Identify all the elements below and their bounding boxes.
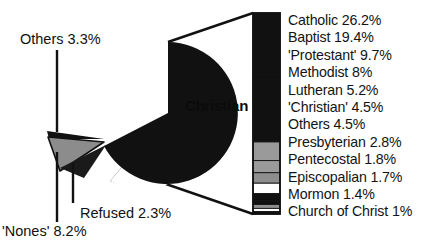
breakout-segment (253, 204, 280, 208)
breakout-legend-item: Pentecostal 1.8% (288, 151, 430, 168)
breakout-legend-item: Lutheran 5.2% (288, 82, 430, 99)
breakout-segment (253, 200, 280, 204)
breakout-legend-item: Mormon 1.4% (288, 186, 430, 203)
refused-callout-label: Refused 2.3% (80, 206, 171, 221)
breakout-legend-item: Baptist 19.4% (288, 29, 430, 46)
breakout-segment (253, 194, 280, 201)
breakout-legend-item: Methodist 8% (288, 64, 430, 81)
christian-label-percent: 86.2% (185, 114, 248, 130)
breakout-segment (253, 208, 280, 211)
breakout-legend-item: Episcopalian 1.7% (288, 169, 430, 186)
breakout-legend-item: Presbyterian 2.8% (288, 134, 430, 151)
breakout-segment (253, 173, 280, 183)
breakout-segment (253, 74, 280, 119)
breakout-segment (253, 13, 280, 74)
breakout-stacked-bar (253, 13, 280, 214)
nones-callout-label: 'Nones' 8.2% (2, 224, 87, 239)
breakout-segment (253, 183, 280, 193)
breakout-legend-item: 'Christian' 4.5% (288, 99, 430, 116)
christian-label-name: Christian (185, 98, 248, 114)
pie-chart-with-breakout: Christian 86.2% Others 3.3% Refused 2.3%… (0, 0, 430, 241)
breakout-legend-item: 'Protestant' 9.7% (288, 47, 430, 64)
breakout-legend-item: Others 4.5% (288, 116, 430, 133)
breakout-segment (253, 119, 280, 142)
breakout-legend-list: Catholic 26.2%Baptist 19.4%'Protestant' … (288, 12, 430, 221)
breakout-legend-item: Church of Christ 1% (288, 203, 430, 220)
breakout-legend-item: Catholic 26.2% (288, 12, 430, 29)
breakout-segment (253, 142, 280, 161)
others-callout-label: Others 3.3% (20, 32, 101, 47)
breakout-segment (253, 161, 280, 173)
christian-center-label: Christian 86.2% (185, 98, 248, 130)
